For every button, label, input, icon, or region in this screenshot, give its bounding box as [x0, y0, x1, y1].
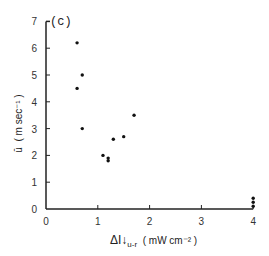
- x-tick-label: 2: [147, 216, 153, 227]
- scatter-plot: 0123401234567: [0, 0, 269, 256]
- y-tick-label: 0: [31, 204, 37, 215]
- panel-label: (c): [50, 15, 72, 29]
- y-tick-label: 2: [31, 150, 37, 161]
- x-tick-label: 3: [199, 216, 205, 227]
- data-point: [106, 159, 109, 162]
- y-tick-label: 1: [31, 177, 37, 188]
- y-tick-label: 7: [31, 16, 37, 27]
- y-tick-label: 3: [31, 124, 37, 135]
- y-tick-label: 6: [31, 43, 37, 54]
- x-tick-label: 1: [95, 216, 101, 227]
- data-point: [112, 138, 115, 141]
- data-point: [252, 205, 255, 208]
- data-point: [132, 114, 135, 117]
- data-point: [252, 197, 255, 200]
- data-point: [252, 201, 255, 204]
- data-point: [75, 87, 78, 90]
- data-point: [81, 73, 84, 76]
- y-axis-label: ū ( m sec⁻¹ ): [13, 84, 24, 164]
- data-point: [75, 41, 78, 44]
- x-axis-label: ΔI↓u-r ( mW cm⁻² ): [110, 233, 197, 249]
- y-tick-label: 5: [31, 70, 37, 81]
- chart-figure: 0123401234567 (c) ū ( m sec⁻¹ ) ΔI↓u-r (…: [0, 0, 269, 256]
- data-point: [101, 154, 104, 157]
- x-tick-label: 0: [43, 216, 49, 227]
- data-point: [81, 127, 84, 130]
- data-point: [122, 135, 125, 138]
- x-tick-label: 4: [250, 216, 256, 227]
- y-tick-label: 4: [31, 97, 37, 108]
